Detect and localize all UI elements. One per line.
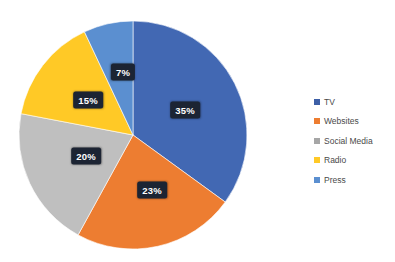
legend-label: Radio xyxy=(324,156,346,165)
legend-swatch-icon xyxy=(314,138,320,144)
pie-data-label-websites: 23% xyxy=(137,182,167,199)
legend-swatch-icon xyxy=(314,177,320,183)
legend-item-radio[interactable]: Radio xyxy=(314,151,394,171)
legend-item-tv[interactable]: TV xyxy=(314,92,394,112)
legend-item-websites[interactable]: Websites xyxy=(314,112,394,132)
pie-data-label-tv: 35% xyxy=(170,102,200,119)
legend-label: Websites xyxy=(324,117,359,126)
pie-data-label-social-media: 20% xyxy=(71,148,101,165)
legend-item-press[interactable]: Press xyxy=(314,170,394,190)
pie-chart: 35%23%20%15%7% TVWebsitesSocial MediaRad… xyxy=(0,0,395,262)
legend-label: Press xyxy=(324,176,346,185)
legend-item-social-media[interactable]: Social Media xyxy=(314,131,394,151)
legend-label: TV xyxy=(324,98,335,107)
pie-data-label-press: 7% xyxy=(111,64,135,81)
legend-label: Social Media xyxy=(324,137,373,146)
legend-swatch-icon xyxy=(314,118,320,124)
pie-plot-area: 35%23%20%15%7% xyxy=(0,0,265,262)
pie-data-label-radio: 15% xyxy=(73,92,103,109)
pie-svg xyxy=(0,0,265,262)
legend-swatch-icon xyxy=(314,157,320,163)
legend-swatch-icon xyxy=(314,99,320,105)
pie-slices xyxy=(19,21,247,249)
chart-legend: TVWebsitesSocial MediaRadioPress xyxy=(314,92,394,190)
